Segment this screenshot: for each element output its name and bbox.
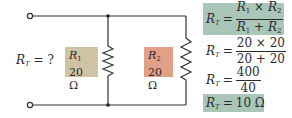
eq1-lhs-sub: T: [215, 19, 220, 27]
r1-sub: 1: [77, 55, 81, 63]
parallel-formula: RT = R1 × R2 R1 + R2: [203, 3, 284, 35]
eq4-equals: =: [223, 96, 233, 110]
terminal-top-icon: [27, 13, 32, 18]
eq3-equals: =: [223, 73, 233, 87]
junction-dot-top-icon: [106, 14, 110, 18]
result-equation: RT = 10 Ω: [203, 94, 264, 112]
resistor-r2-label: R2 20 Ω: [144, 47, 173, 77]
eq2-equals: =: [223, 44, 233, 58]
rt-rest: = ?: [30, 53, 54, 67]
eq1-lhs: R: [206, 12, 215, 26]
simplified-equation: RT = 400 40: [206, 66, 261, 94]
eq1-den-b-sub: 2: [277, 27, 281, 35]
rt-var: R: [16, 53, 25, 67]
r1-value: 20 Ω: [69, 66, 94, 92]
eq1-den-a: R: [237, 20, 246, 34]
eq1-num-b: R: [268, 0, 277, 14]
resistor-r2-symbol: [181, 16, 191, 105]
eq1-fraction: R1 × R2 R1 + R2: [236, 1, 283, 38]
eq2-lhs: R: [206, 44, 215, 58]
eq1-den-op: +: [250, 20, 268, 34]
eq3-denominator: 40: [240, 81, 257, 95]
eq1-denominator: R1 + R2: [236, 20, 283, 38]
eq1-equals: =: [223, 12, 233, 26]
eq1-num-b-sub: 2: [277, 7, 281, 15]
eq3-numerator: 400: [236, 66, 261, 81]
eq2-fraction: 20 × 20 20 + 20: [236, 37, 286, 66]
eq3-lhs-sub: T: [215, 80, 220, 88]
eq1-den-b: R: [268, 20, 277, 34]
resistor-r1-symbol: [103, 16, 113, 105]
eq4-result: 10 Ω: [236, 96, 265, 110]
eq2-lhs-sub: T: [215, 51, 220, 59]
eq1-num-op: ×: [250, 0, 268, 14]
terminal-bottom-icon: [27, 102, 32, 107]
total-resistance-unknown-label: RT = ?: [16, 53, 54, 68]
r2-value: 20 Ω: [148, 66, 169, 92]
substitution-equation: RT = 20 × 20 20 + 20: [206, 36, 286, 66]
eq4-lhs: R: [206, 96, 215, 110]
junction-dot-bottom-icon: [106, 103, 110, 107]
resistor-r1-label: R1 20 Ω: [65, 47, 98, 77]
eq1-numerator: R1 × R2: [236, 1, 283, 20]
eq4-lhs-sub: T: [215, 103, 220, 111]
eq3-lhs: R: [206, 73, 215, 87]
eq2-numerator: 20 × 20: [236, 37, 286, 52]
eq3-fraction: 400 40: [236, 66, 261, 95]
r2-sub: 2: [156, 55, 160, 63]
eq1-num-a: R: [237, 0, 246, 14]
eq2-denominator: 20 + 20: [236, 52, 286, 66]
